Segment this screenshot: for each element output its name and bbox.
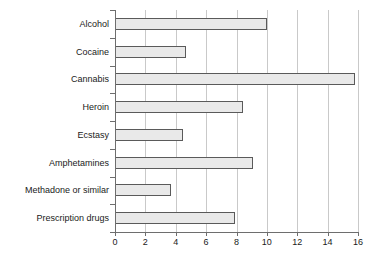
bar-amphetamines	[115, 157, 253, 169]
bar-row	[115, 101, 358, 113]
x-tick-label-0: 0	[112, 237, 117, 248]
bar-chart: 0246810121416 AlcoholCocaineCannabisHero…	[0, 0, 382, 256]
y-tick-2	[110, 66, 115, 67]
category-label-amphetamines: Amphetamines	[49, 157, 109, 169]
x-tick-8	[237, 232, 238, 236]
y-tick-3	[110, 93, 115, 94]
bar-cannabis	[115, 73, 355, 85]
x-tick-label-10: 10	[262, 237, 272, 248]
y-axis-line	[115, 10, 116, 232]
gridline-x-12	[297, 10, 298, 232]
y-tick-5	[110, 149, 115, 150]
gridline-x-16	[358, 10, 359, 232]
gridline-x-8	[237, 10, 238, 232]
category-label-cocaine: Cocaine	[76, 46, 109, 58]
bar-cocaine	[115, 46, 186, 58]
x-tick-0	[115, 232, 116, 236]
bar-ecstasy	[115, 129, 183, 141]
category-label-ecstasy: Ecstasy	[77, 129, 109, 141]
category-label-alcohol: Alcohol	[79, 18, 109, 30]
x-tick-2	[145, 232, 146, 236]
y-tick-7	[110, 204, 115, 205]
plot-area	[115, 10, 358, 232]
gridline-x-4	[176, 10, 177, 232]
bar-row	[115, 73, 358, 85]
bar-row	[115, 212, 358, 224]
bar-row	[115, 46, 358, 58]
category-label-cannabis: Cannabis	[71, 73, 109, 85]
x-tick-label-16: 16	[353, 237, 363, 248]
x-tick-label-12: 12	[292, 237, 302, 248]
gridline-x-14	[328, 10, 329, 232]
category-label-methadone-or-similar: Methadone or similar	[25, 184, 109, 196]
x-tick-14	[328, 232, 329, 236]
gridline-x-2	[145, 10, 146, 232]
bar-heroin	[115, 101, 243, 113]
x-tick-label-14: 14	[323, 237, 333, 248]
category-label-heroin: Heroin	[82, 101, 109, 113]
y-tick-6	[110, 177, 115, 178]
x-tick-label-2: 2	[143, 237, 148, 248]
bar-row	[115, 18, 358, 30]
gridline-x-10	[267, 10, 268, 232]
x-tick-label-6: 6	[204, 237, 209, 248]
x-tick-12	[297, 232, 298, 236]
x-tick-label-8: 8	[234, 237, 239, 248]
x-tick-label-4: 4	[173, 237, 178, 248]
bar-row	[115, 184, 358, 196]
bar-alcohol	[115, 18, 267, 30]
y-tick-0	[110, 10, 115, 11]
x-tick-6	[206, 232, 207, 236]
bar-prescription-drugs	[115, 212, 235, 224]
y-tick-1	[110, 38, 115, 39]
x-tick-10	[267, 232, 268, 236]
bar-row	[115, 129, 358, 141]
category-label-prescription-drugs: Prescription drugs	[36, 212, 109, 224]
bar-methadone-or-similar	[115, 184, 171, 196]
y-tick-4	[110, 121, 115, 122]
x-tick-4	[176, 232, 177, 236]
x-tick-16	[358, 232, 359, 236]
bar-row	[115, 157, 358, 169]
gridline-x-6	[206, 10, 207, 232]
